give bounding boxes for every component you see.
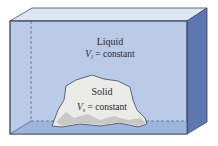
liquid-equation: Vl = constant bbox=[85, 49, 135, 60]
liquid-label: Liquid bbox=[97, 36, 124, 47]
tank-diagram: Liquid Vl = constant Solid Vs = constant bbox=[0, 0, 218, 146]
tank-top-face bbox=[10, 8, 207, 21]
tank-side-face bbox=[187, 8, 207, 134]
solid-equation: Vs = constant bbox=[77, 102, 127, 113]
solid-label: Solid bbox=[91, 86, 112, 97]
